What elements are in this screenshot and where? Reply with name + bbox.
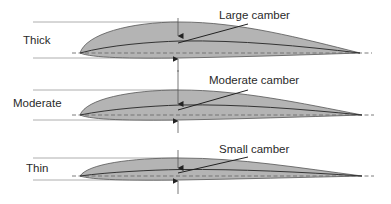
camber-label-moderate: Moderate camber [209,75,299,87]
airfoil-shape [80,22,360,58]
camber-label-small: Small camber [219,144,289,156]
thickness-label-thick: Thick [23,35,50,47]
thickness-label-thin: Thin [26,163,48,175]
airfoil-thin [33,150,374,194]
thickness-label-moderate: Moderate [13,98,62,110]
airfoil-shape [80,158,362,180]
airfoil-thick [33,18,372,72]
camber-label-large: Large camber [219,10,290,22]
airfoil-moderate [33,70,374,133]
